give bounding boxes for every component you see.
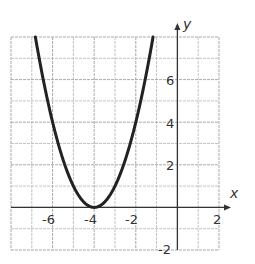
- y-tick-6: 6: [166, 73, 174, 88]
- x-tick-neg4: -4: [84, 212, 97, 227]
- parabola-graph: y x -6 -4 -2 2 6 4 2 -2: [0, 0, 255, 264]
- x-axis-label: x: [229, 185, 239, 201]
- y-axis-label: y: [182, 16, 192, 32]
- y-tick-4: 4: [166, 116, 174, 131]
- x-tick-2: 2: [213, 212, 221, 227]
- x-tick-neg6: -6: [42, 212, 55, 227]
- y-tick-neg2: -2: [158, 242, 171, 257]
- chart-canvas: y x -6 -4 -2 2 6 4 2 -2: [0, 0, 255, 264]
- y-tick-2: 2: [166, 158, 174, 173]
- x-tick-neg2: -2: [125, 212, 138, 227]
